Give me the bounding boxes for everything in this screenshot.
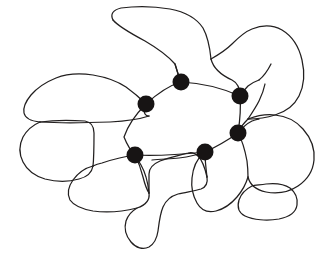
junction-left-lower (127, 147, 144, 164)
junction-right-lower (230, 125, 247, 142)
grain-left-middle (22, 120, 91, 179)
junction-right-upper (232, 88, 249, 105)
diagram-root (0, 0, 330, 256)
junction-top-center (173, 74, 190, 91)
grain-network-figure (0, 0, 330, 256)
junction-left-upper (138, 96, 155, 113)
junction-bottom-center (197, 144, 214, 161)
